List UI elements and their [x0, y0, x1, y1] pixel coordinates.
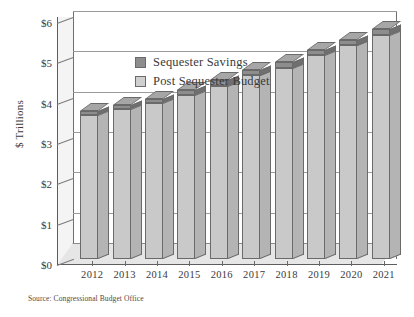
x-axis-label-2017: 2017	[243, 269, 265, 280]
y-axis-title: $ Trillions	[13, 69, 25, 179]
legend-label-sequester-savings: Sequester Savings	[153, 55, 248, 70]
bar-2021[interactable]	[372, 17, 390, 259]
bar-front-face	[210, 86, 228, 259]
legend-swatch-dark-icon	[135, 57, 146, 68]
bar-front-face	[275, 62, 293, 68]
bar-segment-sequester-savings	[145, 99, 163, 103]
bar-segment-post-sequester-budget	[80, 115, 98, 259]
y-axis-tick-label: $1	[41, 219, 57, 231]
bar-side-face	[98, 110, 109, 259]
bar-segment-post-sequester-budget	[339, 45, 357, 259]
bar-2019[interactable]	[307, 17, 325, 259]
bar-front-face	[339, 45, 357, 259]
legend-swatch-light-icon	[135, 76, 146, 87]
bar-segment-post-sequester-budget	[242, 75, 260, 259]
y-axis-tick-label: $2	[41, 178, 57, 190]
bar-front-face	[177, 95, 195, 259]
bar-front-face	[145, 103, 163, 259]
x-axis-label-2012: 2012	[81, 269, 103, 280]
bar-front-face	[113, 109, 131, 259]
x-axis-tick	[157, 261, 158, 266]
legend-item-sequester-savings: Sequester Savings	[135, 53, 270, 72]
x-axis-label-2015: 2015	[178, 269, 200, 280]
bar-side-face	[325, 51, 336, 259]
bar-2018[interactable]	[275, 17, 293, 259]
bar-front-face	[339, 40, 357, 46]
bar-front-face	[372, 35, 390, 259]
bar-segment-sequester-savings	[307, 50, 325, 55]
gridline	[73, 11, 397, 12]
bar-segment-post-sequester-budget	[210, 86, 228, 259]
x-axis-tick	[287, 261, 288, 266]
bar-side-face	[357, 41, 368, 259]
chart-legend: Sequester Savings Post Sequester Budget	[135, 53, 270, 91]
x-axis-tick	[319, 261, 320, 266]
plot-area: $0$1$2$3$4$5$6 2012201320142015201620172…	[57, 17, 397, 265]
bar-side-face	[293, 63, 304, 259]
x-axis-label-2019: 2019	[308, 269, 330, 280]
x-axis-tick	[384, 261, 385, 266]
x-axis-label-2016: 2016	[211, 269, 233, 280]
x-axis-label-2021: 2021	[373, 269, 395, 280]
bar-side-face	[195, 90, 206, 259]
y-axis-line	[57, 17, 58, 265]
legend-label-post-sequester-budget: Post Sequester Budget	[153, 74, 270, 89]
bar-2012[interactable]	[80, 17, 98, 259]
bar-segment-post-sequester-budget	[113, 109, 131, 259]
x-axis-line	[57, 264, 397, 265]
y-axis-tick-label: $5	[41, 57, 57, 69]
x-axis-label-2018: 2018	[275, 269, 297, 280]
bar-segment-post-sequester-budget	[275, 68, 293, 259]
bar-segment-sequester-savings	[113, 105, 131, 109]
x-axis-tick	[222, 261, 223, 266]
bar-segment-post-sequester-budget	[372, 35, 390, 259]
bar-front-face	[80, 111, 98, 115]
bar-side-face	[390, 31, 401, 259]
x-axis-tick	[92, 261, 93, 266]
y-axis-tick-label: $6	[41, 17, 57, 29]
x-axis-tick	[125, 261, 126, 266]
y-axis-tick-label: $4	[41, 98, 57, 110]
x-axis-label-2020: 2020	[340, 269, 362, 280]
bar-front-face	[307, 55, 325, 259]
bar-segment-sequester-savings	[80, 111, 98, 115]
bar-front-face	[80, 115, 98, 259]
x-axis-label-2014: 2014	[146, 269, 168, 280]
bar-front-face	[145, 99, 163, 103]
bar-side-face	[260, 71, 271, 259]
x-axis-tick	[254, 261, 255, 266]
x-axis-tick	[189, 261, 190, 266]
y-axis-tick-label: $3	[41, 138, 57, 150]
bar-front-face	[307, 50, 325, 55]
source-note: Source: Congressional Budget Office	[28, 294, 144, 303]
bar-segment-post-sequester-budget	[307, 55, 325, 259]
bar-segment-sequester-savings	[339, 40, 357, 46]
bar-segment-post-sequester-budget	[145, 103, 163, 259]
bar-2020[interactable]	[339, 17, 357, 259]
bar-side-face	[131, 105, 142, 259]
bar-front-face	[113, 105, 131, 109]
bar-segment-sequester-savings	[275, 62, 293, 68]
bar-2013[interactable]	[113, 17, 131, 259]
bar-front-face	[372, 29, 390, 35]
y-axis-tick-label: $0	[41, 259, 57, 271]
bar-side-face	[228, 81, 239, 259]
x-axis-label-2013: 2013	[113, 269, 135, 280]
bar-segment-post-sequester-budget	[177, 95, 195, 259]
legend-item-post-sequester-budget: Post Sequester Budget	[135, 72, 270, 91]
bar-front-face	[275, 68, 293, 259]
bar-chart: $ Trillions $0$1$2$3$4$5$6 2012201320142…	[0, 0, 414, 317]
bar-segment-sequester-savings	[372, 29, 390, 35]
x-axis-tick	[351, 261, 352, 266]
bar-side-face	[163, 98, 174, 259]
bar-front-face	[242, 75, 260, 259]
